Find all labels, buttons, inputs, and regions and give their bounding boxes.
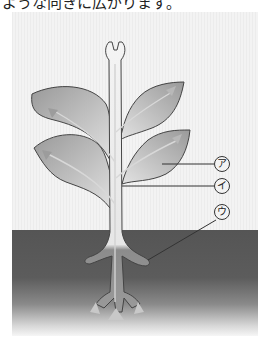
plant-illustration — [12, 12, 258, 336]
label-a: ア — [214, 156, 230, 172]
label-u: ウ — [214, 204, 230, 220]
caption-text: ような向きに広がります。 — [2, 0, 181, 12]
plant-diagram-panel: ア イ ウ — [12, 12, 258, 336]
label-i: イ — [214, 178, 230, 194]
